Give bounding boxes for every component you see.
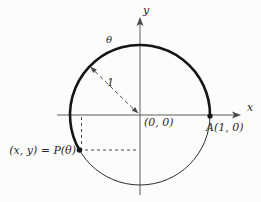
point-p-dot	[77, 147, 83, 153]
unit-circle-diagram: y x θ 1 (0, 0) A(1, 0) (x, y) = P(θ)	[0, 0, 261, 202]
radius-label: 1	[107, 76, 114, 89]
point-a-dot	[207, 113, 212, 118]
x-axis-label: x	[247, 101, 254, 114]
radius-dashed-line	[95, 72, 134, 110]
origin-label: (0, 0)	[144, 116, 174, 129]
point-a-label: A(1, 0)	[205, 121, 244, 134]
point-p-label: (x, y) = P(θ)	[9, 144, 76, 157]
unit-circle-figure: y x θ 1 (0, 0) A(1, 0) (x, y) = P(θ)	[0, 0, 261, 202]
y-axis-label: y	[142, 4, 150, 17]
theta-label: θ	[106, 34, 112, 45]
